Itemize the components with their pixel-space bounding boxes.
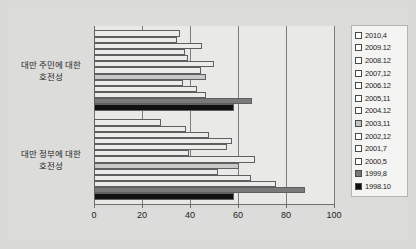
category-label-taiwan-residents: 대만 주민에 대한호전성: [10, 59, 92, 83]
legend-swatch-icon: [355, 158, 362, 165]
legend-label: 2007,12: [365, 69, 391, 78]
category-label-line: 대만 주민에 대한: [10, 59, 92, 71]
bar: [94, 104, 234, 110]
legend-label: 2006.12: [365, 81, 391, 90]
legend-item[interactable]: 2006.12: [355, 79, 405, 92]
legend-swatch-icon: [355, 133, 362, 140]
category-label-taiwan-government: 대만 정부에 대한호전성: [10, 148, 92, 172]
bar: [94, 193, 234, 199]
x-axis-line: [94, 204, 335, 205]
x-tick-60: [238, 204, 239, 208]
legend-label: 2003,11: [365, 119, 390, 128]
bar-cluster: [94, 115, 334, 204]
gridline-100: [334, 26, 335, 204]
plot-area-wrapper: [94, 26, 334, 204]
legend-item[interactable]: 2003,11: [355, 117, 405, 130]
legend-item[interactable]: 2009.12: [355, 42, 405, 55]
legend-swatch-icon: [355, 32, 362, 39]
chart-figure: 대만 주민에 대한호전성 대만 정부에 대한호전성 020406080100 2…: [0, 0, 416, 249]
x-tick-20: [142, 204, 143, 208]
legend-label: 2010,4: [365, 31, 387, 40]
legend-label: 2000,5: [365, 157, 387, 166]
legend-item[interactable]: 2008.12: [355, 54, 405, 67]
legend-swatch-icon: [355, 57, 362, 64]
legend-swatch-icon: [355, 120, 362, 127]
x-tick-100: [334, 204, 335, 208]
legend-swatch-icon: [355, 95, 362, 102]
legend-label: 2008.12: [365, 56, 391, 65]
legend-label: 2004.12: [365, 106, 391, 115]
legend-item[interactable]: 2004.12: [355, 105, 405, 118]
legend-swatch-icon: [355, 44, 362, 51]
category-label-line: 호전성: [10, 71, 92, 83]
legend-swatch-icon: [355, 70, 362, 77]
legend-label: 1998.10: [365, 182, 391, 191]
legend-item[interactable]: 1998.10: [355, 180, 405, 193]
x-tick-label-0: 0: [91, 210, 96, 220]
x-tick-label-60: 60: [233, 210, 243, 220]
legend-label: 2009.12: [365, 43, 391, 52]
legend-item[interactable]: 2010,4: [355, 29, 405, 42]
legend-item[interactable]: 1999,8: [355, 168, 405, 181]
legend-swatch-icon: [355, 107, 362, 114]
legend-swatch-icon: [355, 183, 362, 190]
legend-item[interactable]: 2005,11: [355, 92, 405, 105]
legend-swatch-icon: [355, 170, 362, 177]
x-tick-40: [190, 204, 191, 208]
legend-label: 2001,7: [365, 144, 387, 153]
legend-item[interactable]: 2001,7: [355, 142, 405, 155]
x-tick-label-20: 20: [137, 210, 147, 220]
legend-label: 2005,11: [365, 94, 390, 103]
legend-item[interactable]: 2002,12: [355, 130, 405, 143]
legend-label: 1999,8: [365, 169, 387, 178]
x-tick-0: [94, 204, 95, 208]
legend-label: 2002,12: [365, 132, 391, 141]
legend-swatch-icon: [355, 145, 362, 152]
x-tick-label-100: 100: [326, 210, 341, 220]
legend-swatch-icon: [355, 82, 362, 89]
bar-cluster: [94, 26, 334, 115]
x-tick-label-80: 80: [281, 210, 291, 220]
x-tick-80: [286, 204, 287, 208]
category-label-line: 대만 정부에 대한: [10, 148, 92, 160]
legend-item[interactable]: 2000,5: [355, 155, 405, 168]
chart-legend: 2010,42009.122008.122007,122006.122005,1…: [351, 25, 408, 197]
category-label-line: 호전성: [10, 160, 92, 172]
legend-item[interactable]: 2007,12: [355, 67, 405, 80]
x-tick-label-40: 40: [185, 210, 195, 220]
